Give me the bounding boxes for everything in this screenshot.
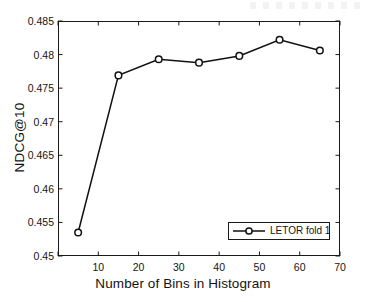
x-tick-label: 10 xyxy=(83,262,113,273)
legend-label: LETOR fold 1 xyxy=(270,226,330,236)
x-tick-label: 70 xyxy=(325,262,355,273)
y-axis-title: NDCG@10 xyxy=(12,73,27,203)
x-tick-label: 50 xyxy=(244,262,274,273)
legend-line-marker-icon xyxy=(232,225,266,237)
x-tick-label: 20 xyxy=(124,262,154,273)
x-axis-title: Number of Bins in Histogram xyxy=(0,276,366,291)
x-tick-label: 30 xyxy=(164,262,194,273)
x-tick-label: 40 xyxy=(204,262,234,273)
chart-page: 0.450.4550.460.4650.470.4750.480.485 102… xyxy=(0,0,366,302)
x-tick-label: 60 xyxy=(285,262,315,273)
x-axis-tick-labels: 10203040506070 xyxy=(0,0,366,302)
legend[interactable]: LETOR fold 1 xyxy=(228,222,330,240)
